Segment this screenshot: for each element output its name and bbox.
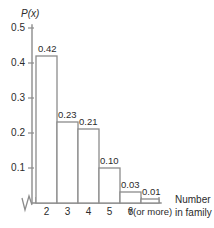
x-tick-label-4: 4 [86,206,92,217]
x-tick-label-5: 5 [107,206,113,217]
bar-category-2 [36,56,57,203]
x-tick-label-3: 3 [65,206,71,217]
y-tick-label-3: 0.2 [11,127,25,138]
y-axis-tick-labels: 0.5 0.4 0.3 0.2 0.1 [11,22,25,173]
svg-text:P(x): P(x) [21,8,39,19]
probability-histogram-chart: P(x) 0.5 0.4 0.3 0.2 0.1 [0,0,214,228]
bar-value-label-4: 0.21 [79,116,98,127]
y-tick-label-4: 0.1 [11,162,25,173]
x-axis-title-line1: Number [175,194,211,205]
bar-category-7-or-more [141,199,159,203]
y-axis-title: P(x) [21,8,39,19]
bar-value-label-6: 0.03 [121,179,140,190]
chart-svg: P(x) 0.5 0.4 0.3 0.2 0.1 [0,0,214,228]
bar-category-6 [120,192,141,203]
bar-value-label-2: 0.42 [38,43,57,54]
bar-value-label-7-or-more: 0.01 [142,186,161,197]
y-tick-label-2: 0.3 [11,92,25,103]
x-tick-label-2: 2 [44,206,50,217]
y-axis-ticks [28,28,34,168]
y-axis-title-close-paren: ) [35,8,39,19]
x-tick-label-7-or-more: 7(or more) [128,206,172,217]
y-tick-label-1: 0.4 [11,57,25,68]
x-axis-title-line2: in family [175,207,212,218]
bar-value-label-3: 0.23 [58,109,77,120]
x-axis-tick-labels: 2 3 4 5 6 7(or more) [44,206,172,217]
bar-category-5 [99,168,120,203]
x-axis-title: Number in family [175,194,212,218]
bar-value-label-5: 0.10 [100,155,119,166]
y-tick-label-0: 0.5 [11,22,25,33]
bar-category-4 [78,129,99,203]
bar-category-3 [57,122,78,203]
axis-break-icon [22,196,32,210]
bar-series [36,56,159,203]
